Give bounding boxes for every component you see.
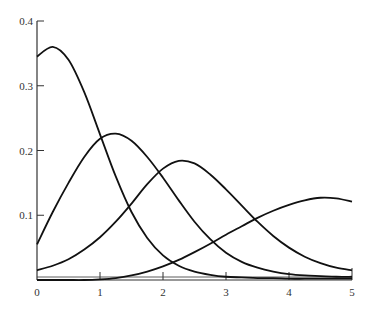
- y-tick-label: 0.3: [19, 80, 33, 92]
- curve-4: [37, 198, 352, 280]
- x-tick-label: 4: [286, 286, 292, 298]
- y-tick-label: 0.1: [19, 209, 33, 221]
- x-tick-label: 5: [349, 286, 355, 298]
- line-chart: 0123450.10.20.30.4: [0, 0, 372, 312]
- y-tick-label: 0.2: [19, 145, 33, 157]
- x-tick-label: 0: [34, 286, 40, 298]
- y-tick-label: 0.4: [19, 15, 33, 27]
- x-tick-label: 2: [160, 286, 166, 298]
- x-tick-label: 1: [97, 286, 103, 298]
- x-tick-label: 3: [223, 286, 229, 298]
- curve-3: [37, 161, 352, 271]
- curves: [37, 47, 352, 280]
- curve-2: [37, 134, 352, 277]
